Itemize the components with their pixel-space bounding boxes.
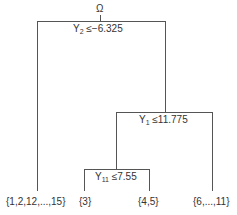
split-value: −6.325 (92, 23, 123, 34)
leaf-node: {6,...,11} (193, 197, 230, 207)
split-var: Y (73, 23, 80, 34)
split-sub: 11 (102, 176, 109, 183)
split-var: Y (139, 114, 146, 125)
root-label: Ω (96, 4, 103, 14)
split-y2: Y2 ≤−6.325 (73, 24, 123, 35)
split-value: 11.775 (158, 114, 188, 125)
split-var: Y (95, 171, 102, 182)
leaf-node: {4,5} (138, 197, 159, 207)
split-value: 7.55 (117, 171, 136, 182)
leaf-node: {1,2,12,...,15} (6, 197, 66, 207)
split-y1: Y1 ≤11.775 (139, 115, 188, 126)
split-sub: 1 (146, 119, 150, 126)
split-sub: 2 (80, 28, 84, 35)
leaf-node: {3} (79, 197, 91, 207)
split-y11: Y11 ≤7.55 (95, 172, 137, 183)
